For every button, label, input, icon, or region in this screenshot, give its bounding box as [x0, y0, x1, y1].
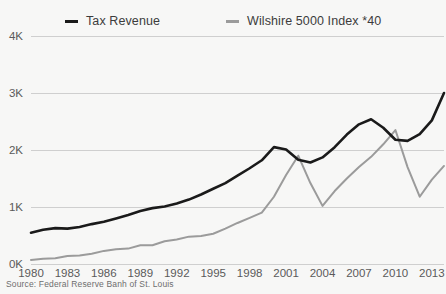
x-axis-tick-label: 1989: [128, 267, 154, 278]
y-axis-tick-label: 2K: [9, 144, 23, 156]
y-axis-tick-label: 1K: [9, 201, 23, 213]
x-axis-tick-label: 1983: [55, 267, 81, 278]
legend-item-tax-revenue: Tax Revenue: [65, 14, 160, 28]
x-axis-tick-label: 1998: [237, 267, 263, 278]
y-axis-tick-label: 3K: [9, 87, 23, 99]
x-axis-tick-label: 1986: [91, 267, 117, 278]
legend-item-wilshire: Wilshire 5000 Index *40: [226, 14, 381, 28]
y-axis-tick-label: 4K: [9, 30, 23, 42]
legend-label-tax-revenue: Tax Revenue: [86, 14, 160, 28]
chart-legend: Tax Revenue Wilshire 5000 Index *40: [0, 11, 446, 31]
series-line-tax-revenue: [31, 93, 444, 233]
x-axis-tick-label: 1992: [164, 267, 190, 278]
x-axis-tick-label: 2004: [310, 267, 336, 278]
x-axis-tick-label: 1980: [18, 267, 44, 278]
chart-source-note: Source: Federal Reserve Banh of St. Loui…: [6, 279, 174, 289]
x-axis-tick-label: 2010: [383, 267, 409, 278]
x-axis-tick-label: 2007: [346, 267, 372, 278]
legend-swatch-tax-revenue: [65, 20, 78, 23]
chart-plot-area: 0K1K2K3K4K198019831986198919921995199820…: [0, 0, 446, 278]
chart-container: Tax Revenue Wilshire 5000 Index *40 0K1K…: [0, 0, 446, 294]
x-axis-tick-label: 1995: [200, 267, 226, 278]
legend-swatch-wilshire: [226, 20, 239, 23]
x-axis-tick-label: 2013: [419, 267, 445, 278]
x-axis-tick-label: 2001: [273, 267, 299, 278]
legend-label-wilshire: Wilshire 5000 Index *40: [247, 14, 381, 28]
